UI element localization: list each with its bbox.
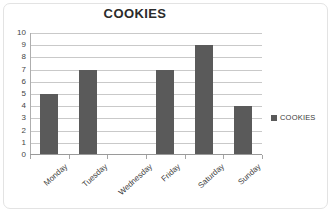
x-axis-category-labels: MondayTuesdayWednesdayFridaySaturdaySund… (30, 160, 262, 208)
bar-series-cookies (30, 33, 262, 155)
bar[interactable] (79, 70, 97, 155)
y-axis-tick-labels: 012345678910 (0, 33, 26, 155)
y-axis-tick-label: 2 (0, 127, 26, 135)
chart-legend: COOKIES (271, 114, 316, 122)
bar-slot (30, 33, 69, 155)
x-axis-category-label: Tuesday (81, 162, 110, 189)
legend-label-cookies: COOKIES (280, 114, 316, 122)
y-axis-tick-label: 7 (0, 66, 26, 74)
y-axis-tick-label: 0 (0, 151, 26, 159)
bar-slot (69, 33, 108, 155)
y-axis-tick-label: 9 (0, 41, 26, 49)
y-axis-tick-label: 6 (0, 78, 26, 86)
bar[interactable] (40, 94, 58, 155)
x-axis-tick (262, 155, 263, 159)
bar-slot (223, 33, 262, 155)
x-label-slot: Saturday (185, 160, 224, 208)
bar[interactable] (156, 70, 174, 155)
y-axis-tick-label: 8 (0, 53, 26, 61)
x-label-slot: Friday (146, 160, 185, 208)
x-axis-category-label: Monday (42, 162, 69, 188)
bar-slot (107, 33, 146, 155)
x-axis-tick (146, 155, 147, 159)
x-axis-category-label: Sunday (236, 162, 262, 187)
x-axis-tick (185, 155, 186, 159)
y-axis-tick-label: 5 (0, 90, 26, 98)
bar-slot (146, 33, 185, 155)
y-axis-tick-label: 4 (0, 102, 26, 110)
x-axis-tick (30, 155, 31, 159)
x-label-slot: Sunday (223, 160, 262, 208)
x-axis-category-label: Friday (160, 162, 183, 184)
x-axis-tick (107, 155, 108, 159)
plot-area (30, 33, 262, 155)
x-axis-tick (223, 155, 224, 159)
x-label-slot: Wednesday (107, 160, 146, 208)
chart-title: COOKIES (0, 6, 270, 21)
bar[interactable] (234, 106, 252, 155)
y-axis-tick-label: 1 (0, 139, 26, 147)
legend-swatch-icon (271, 115, 277, 121)
x-axis-tick (69, 155, 70, 159)
bar-slot (185, 33, 224, 155)
y-axis-tick-label: 3 (0, 114, 26, 122)
y-axis-tick-label: 10 (0, 29, 26, 37)
x-axis-ticks (30, 155, 263, 159)
bar[interactable] (195, 45, 213, 155)
x-axis-category-label: Saturday (196, 162, 226, 190)
x-label-slot: Tuesday (69, 160, 108, 208)
chart-container: COOKIES 012345678910 MondayTuesdayWednes… (0, 0, 332, 213)
x-label-slot: Monday (30, 160, 69, 208)
